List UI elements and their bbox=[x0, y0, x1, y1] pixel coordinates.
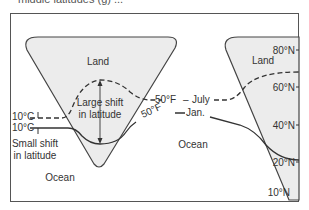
ocean-left-label: Ocean bbox=[45, 172, 74, 183]
land-left-label: Land bbox=[87, 56, 109, 67]
large-shift-label-1: Large shift bbox=[77, 97, 124, 108]
large-shift-label-2: in latitude bbox=[79, 109, 122, 120]
july-dash: – bbox=[183, 94, 189, 105]
lat-10-label: 10°N bbox=[268, 187, 290, 198]
lat-60-label: 60°N bbox=[273, 82, 295, 93]
land-right-label: Land bbox=[252, 55, 274, 66]
jan-label: Jan. bbox=[186, 107, 205, 118]
lat-80-label: 80°N bbox=[273, 45, 295, 56]
isotherm-jan-celsius: 10°C bbox=[12, 122, 34, 133]
small-shift-label-1: Small shift bbox=[12, 138, 58, 149]
isotherm-july-celsius: 10°C bbox=[12, 111, 34, 122]
lat-40-label: 40°N bbox=[273, 120, 295, 131]
small-shift-label-2: in latitude bbox=[14, 150, 57, 161]
ocean-center-label: Ocean bbox=[178, 139, 207, 150]
lat-20-label: 20°N bbox=[273, 157, 295, 168]
isotherm-diagram: Land Land Large shift in latitude Small … bbox=[0, 0, 309, 210]
july-label: July bbox=[192, 94, 210, 105]
isotherm-jan-fahrenheit: 50°F bbox=[139, 101, 163, 120]
